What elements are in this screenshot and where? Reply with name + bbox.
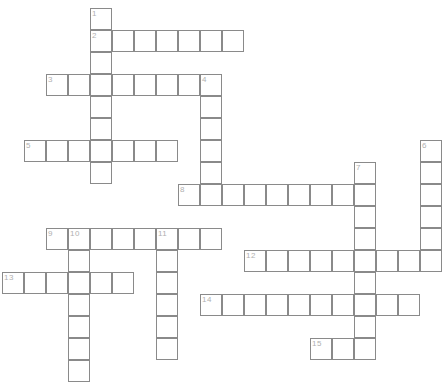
crossword-cell[interactable]: [112, 30, 134, 52]
crossword-cell[interactable]: [156, 74, 178, 96]
crossword-cell[interactable]: [200, 184, 222, 206]
cell-number-14: 14: [202, 295, 212, 304]
crossword-cell[interactable]: [200, 96, 222, 118]
crossword-cell[interactable]: [68, 140, 90, 162]
crossword-cell[interactable]: [46, 272, 68, 294]
crossword-cell[interactable]: [156, 140, 178, 162]
crossword-cell[interactable]: 4: [200, 74, 222, 96]
crossword-cell[interactable]: [156, 338, 178, 360]
crossword-cell[interactable]: [68, 360, 90, 382]
crossword-cell[interactable]: [68, 316, 90, 338]
crossword-cell[interactable]: [222, 184, 244, 206]
crossword-cell[interactable]: [156, 30, 178, 52]
crossword-cell[interactable]: 12: [244, 250, 266, 272]
crossword-cell[interactable]: 6: [420, 140, 442, 162]
crossword-cell[interactable]: [46, 140, 68, 162]
crossword-cell[interactable]: [200, 228, 222, 250]
crossword-cell[interactable]: 1: [90, 8, 112, 30]
crossword-cell[interactable]: [90, 228, 112, 250]
crossword-cell[interactable]: [112, 74, 134, 96]
crossword-cell[interactable]: [200, 162, 222, 184]
crossword-cell[interactable]: [332, 250, 354, 272]
crossword-cell[interactable]: [332, 294, 354, 316]
crossword-cell[interactable]: [310, 184, 332, 206]
crossword-cell[interactable]: [398, 294, 420, 316]
crossword-cell[interactable]: [200, 118, 222, 140]
crossword-cell[interactable]: [90, 140, 112, 162]
crossword-cell[interactable]: [420, 162, 442, 184]
crossword-cell[interactable]: [354, 294, 376, 316]
crossword-cell[interactable]: [420, 206, 442, 228]
crossword-cell[interactable]: [354, 250, 376, 272]
crossword-cell[interactable]: [178, 228, 200, 250]
crossword-cell[interactable]: [68, 74, 90, 96]
crossword-cell[interactable]: 13: [2, 272, 24, 294]
crossword-cell[interactable]: [288, 294, 310, 316]
crossword-cell[interactable]: [68, 338, 90, 360]
crossword-cell[interactable]: [134, 30, 156, 52]
crossword-cell[interactable]: [310, 250, 332, 272]
crossword-cell[interactable]: [244, 184, 266, 206]
crossword-cell[interactable]: [68, 272, 90, 294]
crossword-cell[interactable]: [288, 250, 310, 272]
crossword-cell[interactable]: [266, 250, 288, 272]
crossword-cell[interactable]: [354, 184, 376, 206]
crossword-cell[interactable]: [178, 30, 200, 52]
crossword-cell[interactable]: [90, 96, 112, 118]
crossword-cell[interactable]: 7: [354, 162, 376, 184]
crossword-cell[interactable]: [112, 272, 134, 294]
crossword-grid[interactable]: 123456789101112131415: [0, 0, 444, 388]
crossword-cell[interactable]: 8: [178, 184, 200, 206]
crossword-cell[interactable]: [354, 338, 376, 360]
crossword-cell[interactable]: 3: [46, 74, 68, 96]
crossword-cell[interactable]: 14: [200, 294, 222, 316]
crossword-cell[interactable]: 11: [156, 228, 178, 250]
crossword-cell[interactable]: [398, 250, 420, 272]
crossword-cell[interactable]: [266, 184, 288, 206]
crossword-cell[interactable]: [354, 228, 376, 250]
crossword-cell[interactable]: [68, 250, 90, 272]
crossword-cell[interactable]: [156, 316, 178, 338]
crossword-cell[interactable]: [288, 184, 310, 206]
crossword-cell[interactable]: [222, 30, 244, 52]
crossword-cell[interactable]: [90, 74, 112, 96]
crossword-cell[interactable]: [200, 30, 222, 52]
crossword-cell[interactable]: 9: [46, 228, 68, 250]
crossword-cell[interactable]: 2: [90, 30, 112, 52]
crossword-cell[interactable]: [332, 184, 354, 206]
crossword-cell[interactable]: [376, 294, 398, 316]
cell-number-3: 3: [48, 75, 53, 84]
crossword-cell[interactable]: [112, 228, 134, 250]
crossword-cell[interactable]: [420, 184, 442, 206]
crossword-cell[interactable]: [112, 140, 134, 162]
crossword-cell[interactable]: [354, 272, 376, 294]
crossword-cell[interactable]: [134, 74, 156, 96]
crossword-cell[interactable]: [90, 272, 112, 294]
crossword-cell[interactable]: [134, 140, 156, 162]
crossword-cell[interactable]: [354, 206, 376, 228]
crossword-cell[interactable]: [156, 294, 178, 316]
crossword-cell[interactable]: [68, 294, 90, 316]
crossword-cell[interactable]: [310, 294, 332, 316]
crossword-cell[interactable]: [420, 228, 442, 250]
crossword-cell[interactable]: [222, 294, 244, 316]
crossword-cell[interactable]: [156, 272, 178, 294]
crossword-cell[interactable]: [354, 316, 376, 338]
crossword-cell[interactable]: [332, 338, 354, 360]
crossword-cell[interactable]: [244, 294, 266, 316]
crossword-cell[interactable]: [134, 228, 156, 250]
crossword-cell[interactable]: [90, 118, 112, 140]
crossword-cell[interactable]: [90, 52, 112, 74]
crossword-cell[interactable]: 15: [310, 338, 332, 360]
crossword-cell[interactable]: 10: [68, 228, 90, 250]
cell-number-11: 11: [158, 229, 167, 238]
crossword-cell[interactable]: [156, 250, 178, 272]
crossword-cell[interactable]: [178, 74, 200, 96]
crossword-cell[interactable]: [90, 162, 112, 184]
crossword-cell[interactable]: [376, 250, 398, 272]
crossword-cell[interactable]: 5: [24, 140, 46, 162]
crossword-cell[interactable]: [200, 140, 222, 162]
crossword-cell[interactable]: [24, 272, 46, 294]
crossword-cell[interactable]: [420, 250, 442, 272]
crossword-cell[interactable]: [266, 294, 288, 316]
